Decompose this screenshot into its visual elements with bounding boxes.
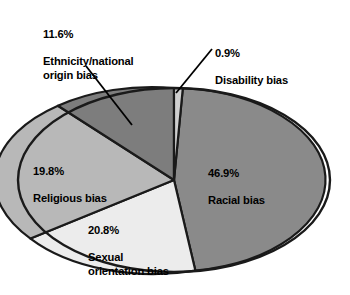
slice-label-religious-bias: 19.8% Religious bias bbox=[33, 152, 107, 219]
slice-label-sexual-orientation-bias: 20.8% Sexual orientation bias bbox=[88, 211, 169, 291]
leader-line-disability bbox=[176, 49, 212, 93]
slice-label-ethnicity-national-origin-bias: 11.6% Ethnicity/national origin bias bbox=[43, 15, 134, 95]
slice-label-racial-name: Racial bias bbox=[208, 194, 265, 207]
slice-label-disability-name: Disability bias bbox=[215, 74, 288, 87]
slice-label-sexual-percent: 20.8% bbox=[88, 224, 169, 237]
pie-chart: 11.6% Ethnicity/national origin bias 0.9… bbox=[0, 0, 350, 295]
slice-label-disability-bias: 0.9% Disability bias bbox=[215, 34, 288, 101]
slice-label-religious-name: Religious bias bbox=[33, 192, 107, 205]
slice-label-sexual-name: Sexual orientation bias bbox=[88, 251, 169, 278]
slice-label-ethnicity-percent: 11.6% bbox=[43, 28, 134, 41]
slice-label-racial-bias: 46.9% Racial bias bbox=[208, 154, 265, 221]
slice-label-racial-percent: 46.9% bbox=[208, 167, 265, 180]
slice-label-ethnicity-name: Ethnicity/national origin bias bbox=[43, 55, 134, 82]
slice-label-disability-percent: 0.9% bbox=[215, 47, 288, 60]
slice-label-religious-percent: 19.8% bbox=[33, 165, 107, 178]
